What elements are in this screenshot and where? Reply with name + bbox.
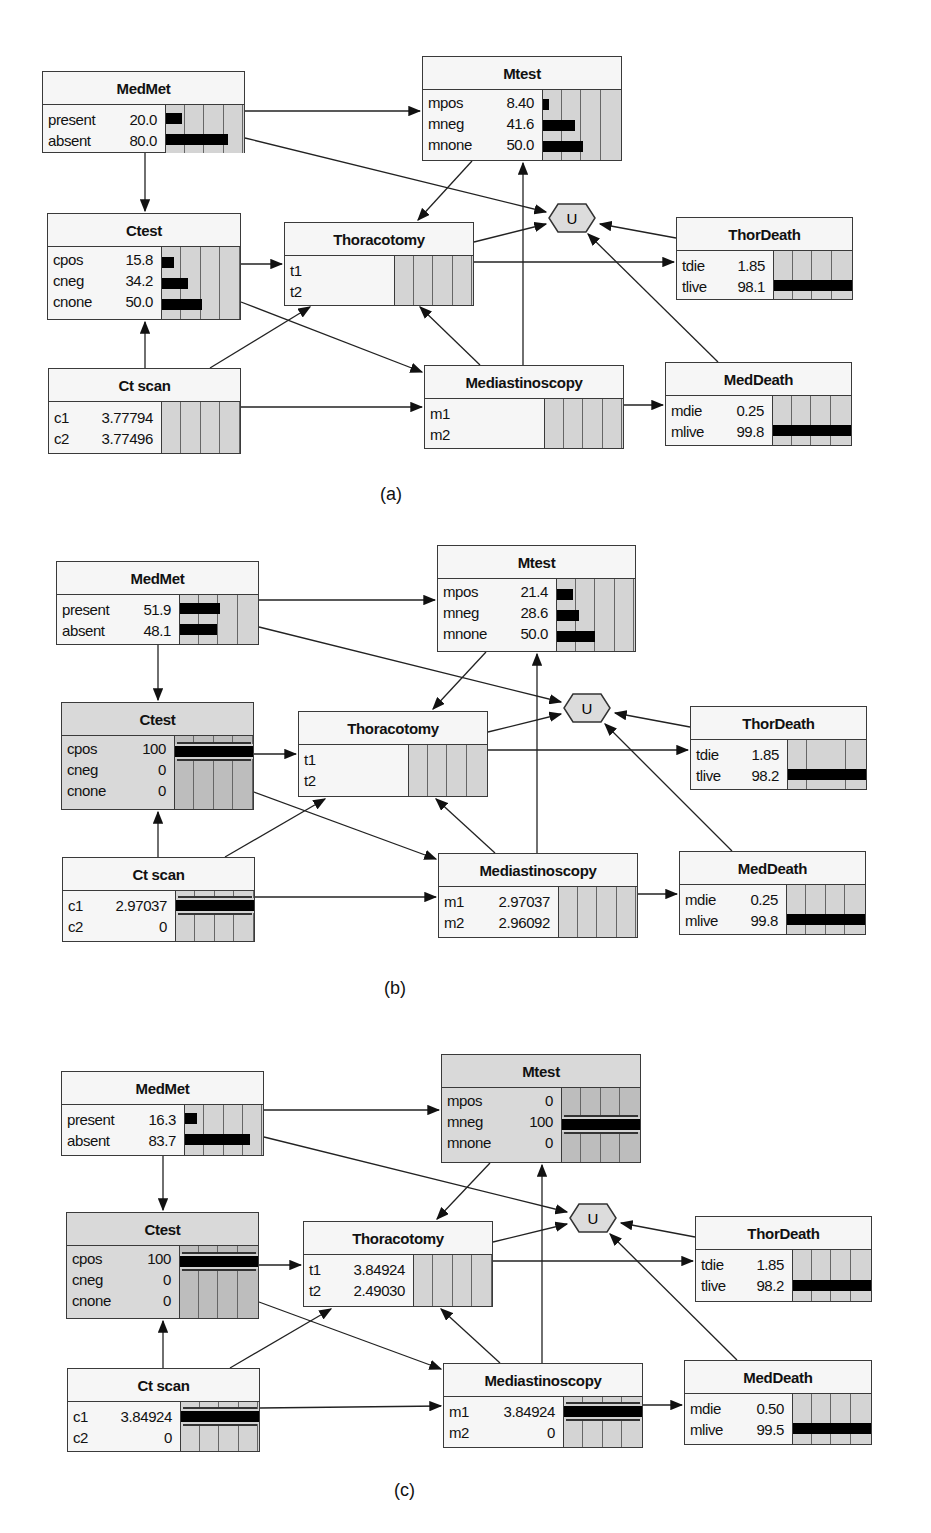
node-title: Mediastinoscopy <box>444 1364 642 1397</box>
state-label: mlive <box>690 1421 723 1438</box>
node-ctscan[interactable]: Ct scan c13.84924 c20 <box>67 1368 260 1452</box>
state-row: tlive98.2 <box>701 1275 788 1296</box>
node-title: Ctest <box>67 1213 258 1246</box>
belief-bars <box>792 1394 871 1444</box>
state-label: mpos <box>447 1092 482 1109</box>
state-label: t1 <box>309 1261 321 1278</box>
state-value: 98.2 <box>726 1277 788 1294</box>
state-row: mpos0 <box>447 1090 557 1111</box>
svg-text:U: U <box>588 1210 599 1227</box>
node-title: Mtest <box>442 1055 640 1088</box>
state-row: t22.49030 <box>309 1280 409 1301</box>
state-row: mdie0.50 <box>690 1398 788 1419</box>
utility-bars <box>180 1402 259 1451</box>
state-row: cneg0 <box>72 1269 175 1290</box>
state-row: c20 <box>73 1427 176 1448</box>
state-value: 3.84924 <box>88 1408 176 1425</box>
state-row: mneg100 <box>447 1111 557 1132</box>
state-label: absent <box>67 1132 110 1149</box>
state-label: cpos <box>72 1250 102 1267</box>
state-row: tdie1.85 <box>701 1254 788 1275</box>
state-value: 0.50 <box>721 1400 788 1417</box>
node-title: Ct scan <box>68 1369 259 1402</box>
node-medmet[interactable]: MedMet present16.3 absent83.7 <box>61 1071 264 1156</box>
state-value: 3.84924 <box>469 1403 559 1420</box>
state-row: present16.3 <box>67 1109 180 1130</box>
node-title: MedDeath <box>685 1361 871 1394</box>
state-row: cpos100 <box>72 1248 175 1269</box>
state-value: 0 <box>491 1134 557 1151</box>
state-row: cnone0 <box>72 1290 175 1311</box>
state-label: c1 <box>73 1408 88 1425</box>
state-label: mdie <box>690 1400 721 1417</box>
state-row: m20 <box>449 1422 559 1443</box>
utility-bars <box>563 1397 642 1447</box>
state-value: 16.3 <box>114 1111 180 1128</box>
state-row: mnone0 <box>447 1132 557 1153</box>
state-value: 0 <box>111 1292 175 1309</box>
utility-node[interactable]: U <box>569 1203 617 1233</box>
state-label: m1 <box>449 1403 469 1420</box>
utility-bars <box>413 1255 492 1306</box>
state-value: 2.49030 <box>321 1282 409 1299</box>
state-label: t2 <box>309 1282 321 1299</box>
node-title: MedMet <box>62 1072 263 1105</box>
state-row: t13.84924 <box>309 1259 409 1280</box>
state-value: 0 <box>482 1092 557 1109</box>
state-value: 0 <box>88 1429 176 1446</box>
node-title: ThorDeath <box>696 1217 871 1250</box>
state-value: 1.85 <box>724 1256 788 1273</box>
state-row: absent83.7 <box>67 1130 180 1151</box>
state-label: tlive <box>701 1277 726 1294</box>
node-meddeath[interactable]: MedDeath mdie0.50 mlive99.5 <box>684 1360 872 1445</box>
state-label: present <box>67 1111 114 1128</box>
state-row: m13.84924 <box>449 1401 559 1422</box>
state-row: mlive99.5 <box>690 1419 788 1440</box>
node-mtest[interactable]: Mtest mpos0 mneg100 mnone0 <box>441 1054 641 1163</box>
state-value: 0 <box>103 1271 175 1288</box>
state-value: 83.7 <box>110 1132 180 1149</box>
state-value: 3.84924 <box>321 1261 409 1278</box>
belief-bars <box>561 1088 640 1162</box>
belief-bars <box>179 1246 258 1318</box>
state-label: c2 <box>73 1429 88 1446</box>
state-value: 100 <box>483 1113 557 1130</box>
belief-bars <box>792 1250 871 1301</box>
panel-caption: (c) <box>394 1480 415 1501</box>
node-title: Thoracotomy <box>304 1222 492 1255</box>
state-label: cnone <box>72 1292 111 1309</box>
node-thordeath[interactable]: ThorDeath tdie1.85 tlive98.2 <box>695 1216 872 1302</box>
state-row: c13.84924 <box>73 1406 176 1427</box>
panel-c: MedMet present16.3 absent83.7 Mtest mpos… <box>0 0 931 1533</box>
state-label: tdie <box>701 1256 724 1273</box>
state-label: mnone <box>447 1134 491 1151</box>
state-value: 99.5 <box>723 1421 788 1438</box>
node-mediastinoscopy[interactable]: Mediastinoscopy m13.84924 m20 <box>443 1363 643 1448</box>
belief-bars <box>184 1105 263 1155</box>
node-ctest[interactable]: Ctest cpos100 cneg0 cnone0 <box>66 1212 259 1319</box>
state-label: cneg <box>72 1271 103 1288</box>
state-label: mneg <box>447 1113 483 1130</box>
state-value: 100 <box>102 1250 175 1267</box>
state-value: 0 <box>469 1424 559 1441</box>
state-label: m2 <box>449 1424 469 1441</box>
node-thoracotomy[interactable]: Thoracotomy t13.84924 t22.49030 <box>303 1221 493 1307</box>
